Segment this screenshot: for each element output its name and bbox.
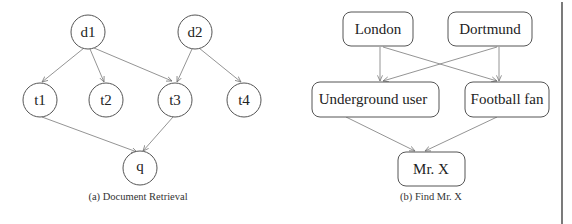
node-label-dortmund: Dortmund — [459, 21, 521, 37]
find-mr-x-graph: London Dortmund Underground user Footbal… — [312, 12, 549, 203]
node-label-q: q — [136, 158, 144, 174]
edge-d1-t3 — [94, 48, 172, 81]
edge-underground-mrx — [346, 117, 415, 151]
edge-football-mrx — [425, 117, 497, 151]
edge-d2-t3 — [177, 49, 192, 82]
caption-a: (a) Document Retrieval — [88, 191, 187, 203]
node-label-t2: t2 — [100, 92, 112, 108]
edge-d2-t4 — [199, 48, 241, 82]
node-label-t1: t1 — [34, 92, 46, 108]
node-label-d2: d2 — [188, 24, 203, 40]
node-label-d1: d1 — [81, 24, 96, 40]
edge-d1-t1 — [42, 48, 84, 82]
node-label-underground-user: Underground user — [319, 91, 427, 107]
edge-t1-q — [42, 117, 137, 152]
document-retrieval-graph: d1 d2 t1 t2 t3 t4 q (a) Document Retriev… — [23, 15, 261, 203]
edge-t3-q — [143, 117, 173, 151]
node-label-football-fan: Football fan — [471, 91, 544, 107]
node-label-mr-x: Mr. X — [413, 161, 449, 177]
node-label-t4: t4 — [238, 92, 250, 108]
node-label-london: London — [355, 21, 402, 37]
edge-d1-t2 — [90, 49, 104, 82]
node-label-t3: t3 — [169, 92, 181, 108]
caption-b: (b) Find Mr. X — [400, 191, 462, 203]
figure-canvas: d1 d2 t1 t2 t3 t4 q (a) Document Retriev… — [0, 0, 572, 224]
